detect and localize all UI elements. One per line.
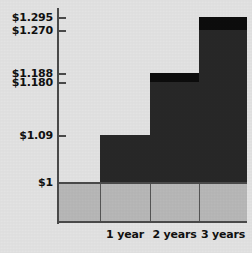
y-tick-label-1: $1	[2, 176, 53, 189]
y-tick-label-1295: $1.295	[2, 11, 53, 24]
bar-2-years	[150, 73, 199, 182]
bar-chart: $1.295 $1.270 $1.188 $1.180 $1.09 $1 1 y…	[0, 0, 252, 253]
column-separator-1	[100, 184, 101, 222]
bar-1-year	[100, 135, 150, 182]
principal-base-block	[57, 182, 247, 222]
y-tick-mark-1188	[59, 73, 66, 75]
y-tick-label-1180: $1.180	[2, 76, 53, 89]
plot-area	[57, 0, 247, 222]
x-tick-label-2-years: 2 years	[150, 228, 199, 241]
bar-cap-3-years	[199, 17, 247, 30]
x-tick-label-3-years: 3 years	[199, 228, 247, 241]
y-tick-mark-1270	[59, 30, 66, 32]
x-axis-line	[57, 221, 247, 223]
bar-cap-2-years	[150, 73, 199, 82]
y-tick-mark-1180	[59, 82, 66, 84]
y-tick-label-109: $1.09	[2, 129, 53, 142]
column-separator-2	[150, 184, 151, 222]
y-tick-mark-1295	[59, 17, 66, 19]
y-tick-mark-109	[59, 135, 66, 137]
y-tick-label-1270: $1.270	[2, 24, 53, 37]
x-tick-label-1-year: 1 year	[100, 228, 150, 241]
column-separator-3	[199, 184, 200, 222]
y-axis-line	[57, 8, 59, 224]
bar-3-years	[199, 17, 247, 182]
